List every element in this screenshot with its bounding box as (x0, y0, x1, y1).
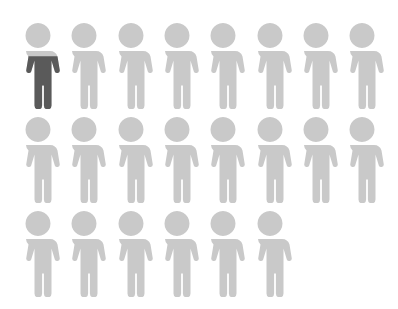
person-icon (16, 209, 60, 297)
person-icon (340, 21, 384, 109)
person-icon (248, 209, 292, 297)
person-icon (155, 115, 199, 203)
person-icon (294, 21, 338, 109)
person-icon (248, 115, 292, 203)
person-icon (62, 115, 106, 203)
person-icon (62, 21, 106, 109)
person-icon (155, 21, 199, 109)
person-icon (109, 209, 153, 297)
person-icon (109, 115, 153, 203)
person-icon (16, 21, 60, 109)
person-icon (62, 209, 106, 297)
person-icon (109, 21, 153, 109)
person-icon (201, 209, 245, 297)
pictogram-grid (0, 0, 398, 309)
person-icon (16, 115, 60, 203)
person-icon (201, 21, 245, 109)
person-icon (201, 115, 245, 203)
person-icon (248, 21, 292, 109)
person-icon (155, 209, 199, 297)
person-icon (294, 115, 338, 203)
person-icon (340, 115, 384, 203)
